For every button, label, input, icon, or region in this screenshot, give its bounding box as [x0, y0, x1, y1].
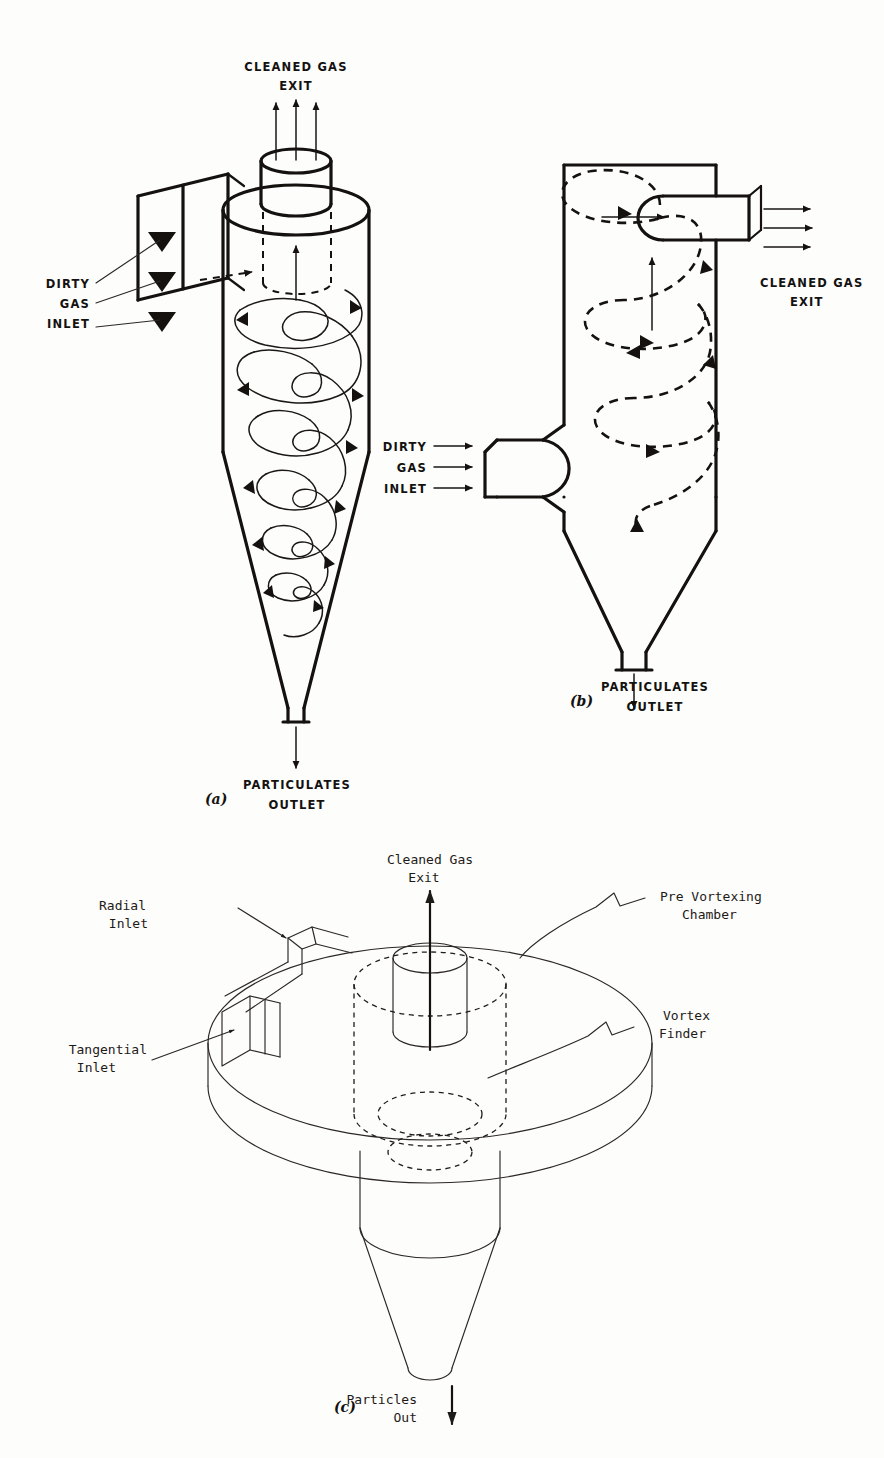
panel-b-particulates-outlet-label-line1: PARTICULATES [601, 680, 709, 694]
panel-a-particulates-outlet-label-line2: OUTLET [268, 798, 325, 812]
panel-a-spiral-flow [235, 290, 364, 637]
figure-page: CLEANED GAS EXIT DIRTY GAS INLET PARTICU… [0, 0, 884, 1458]
panel-b-dirty-gas-inlet-label-line3: INLET [384, 482, 427, 496]
panel-a-dirty-gas-inlet-label-line2: GAS [60, 297, 90, 311]
panel-c-particles-out-label-line1: Particles [347, 1392, 417, 1407]
panel-c-pre-vortexing-chamber-label-line2: Chamber [682, 907, 737, 922]
panel-b-caption: (b) [570, 693, 593, 709]
panel-c-vortex-finder-label-line1: Vortex [663, 1008, 710, 1023]
panel-a-drawing [96, 100, 369, 768]
panel-b-exit-arrows [764, 209, 812, 247]
panel-b-cleaned-gas-exit-label-line2: EXIT [790, 295, 824, 309]
panel-c-particles-out-label-line2: Out [394, 1410, 417, 1425]
panel-b-exit-duct [638, 186, 761, 240]
panel-b-inlet-arrows [434, 446, 472, 488]
panel-b-inlet-duct [485, 440, 569, 497]
panel-a-cleaned-gas-exit-label-line2: EXIT [279, 79, 313, 93]
panel-a-inlet-arrows [148, 232, 176, 332]
panel-b-particulates-outlet-label-line2: OUTLET [626, 700, 683, 714]
panel-b-cleaned-gas-exit-label-line1: CLEANED GAS [760, 276, 863, 290]
panel-c-drawing [152, 891, 652, 1424]
panel-b-drawing [434, 165, 812, 708]
panel-b-dirty-gas-inlet-label-line1: DIRTY [383, 440, 427, 454]
panel-a-cleaned-gas-exit-label-line1: CLEANED GAS [244, 60, 347, 74]
cyclone-figure-svg: CLEANED GAS EXIT DIRTY GAS INLET PARTICU… [0, 0, 884, 1458]
panel-a-hidden-lines [200, 212, 331, 294]
panel-c-caption: (c) [334, 1399, 356, 1415]
panel-c-vortex-finder-label-line2: Finder [659, 1026, 706, 1041]
panel-c-tangential-inlet-label-line1: Tangential [69, 1042, 147, 1057]
panel-a-particulates-outlet-label-line1: PARTICULATES [243, 778, 351, 792]
panel-c-cleaned-gas-exit-label-line2: Exit [408, 870, 439, 885]
panel-b-dirty-gas-inlet-label-line2: GAS [397, 461, 427, 475]
panel-c-leaders [152, 893, 645, 1078]
panel-a-dirty-gas-inlet-label-line1: DIRTY [46, 277, 90, 291]
panel-c-cleaned-gas-exit-label-line1: Cleaned Gas [387, 852, 473, 867]
panel-c-cone [360, 1151, 500, 1380]
panel-c-radial-inlet-label-line2: Inlet [109, 916, 148, 931]
panel-c-tangential-inlet-label-line2: Inlet [77, 1060, 116, 1075]
panel-a-caption: (a) [205, 791, 227, 807]
panel-a-dirty-gas-inlet-label-line3: INLET [47, 317, 90, 331]
panel-c-radial-inlet-label-line1: Radial [99, 898, 146, 913]
panel-c-pre-vortexing-chamber-label-line1: Pre Vortexing [660, 889, 762, 904]
